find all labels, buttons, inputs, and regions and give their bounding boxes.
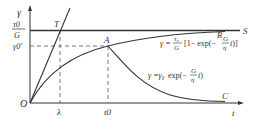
t0-label: t0 <box>104 107 112 117</box>
point-B-label: B <box>217 31 222 40</box>
svg-text:[1− exp(−: [1− exp(− <box>184 39 216 48</box>
svg-text:t): t) <box>198 71 203 80</box>
svg-text:G: G <box>191 67 196 75</box>
svg-text:τ₀: τ₀ <box>174 35 180 43</box>
G-label: G <box>14 31 20 40</box>
svg-text:G: G <box>223 35 228 43</box>
svg-text:G: G <box>174 44 179 52</box>
relaxation-equation: γ =γ₀ exp(− G η t) <box>148 67 203 84</box>
svg-text:t)]: t)] <box>230 39 238 48</box>
point-C-label: C <box>222 91 229 101</box>
svg-text:η: η <box>223 44 227 52</box>
relaxation-curve <box>108 46 225 102</box>
svg-text:η: η <box>191 76 195 84</box>
gamma0-prime-label: γ0′ <box>13 42 22 51</box>
point-A-label: A <box>103 35 110 45</box>
svg-text:γ =γ₀: γ =γ₀ <box>148 71 165 80</box>
lambda-label: λ <box>56 107 61 117</box>
y-axis-label: γ <box>17 7 22 18</box>
y-axis-arrow-icon <box>28 5 32 11</box>
point-S-label: S <box>243 26 248 36</box>
x-axis-label: t <box>232 108 235 118</box>
tangent-line-OT <box>30 8 70 103</box>
x-axis-arrow-icon <box>238 101 244 105</box>
origin-label: O <box>20 98 27 109</box>
svg-text:γ =: γ = <box>160 39 171 48</box>
creep-recovery-diagram: γ τ0 G γ0′ T A B S C O λ t0 t γ = τ₀ G [… <box>0 0 255 122</box>
tau0-label: τ0 <box>13 20 20 29</box>
point-T-label: T <box>54 19 60 29</box>
loading-equation: γ = τ₀ G [1− exp(− G η t)] <box>160 35 238 52</box>
svg-text:exp(−: exp(− <box>168 71 187 80</box>
